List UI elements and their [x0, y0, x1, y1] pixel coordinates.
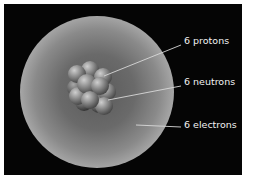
leader-line-protons	[104, 45, 181, 76]
leader-line-electrons	[136, 125, 181, 127]
nucleus-and-leaders	[4, 4, 242, 175]
label-electrons: 6 electrons	[184, 119, 237, 130]
leader-line-neutrons	[108, 86, 181, 100]
label-protons: 6 protons	[184, 35, 229, 46]
nucleus	[67, 61, 116, 115]
label-neutrons: 6 neutrons	[184, 76, 235, 87]
atom-diagram-panel: 6 protons 6 neutrons 6 electrons	[4, 4, 242, 175]
